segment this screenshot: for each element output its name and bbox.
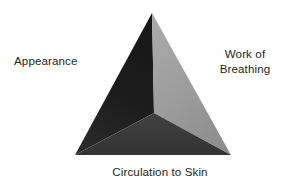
pyramid-label-appearance: Appearance (14, 54, 78, 69)
pyramid-graphic (0, 0, 288, 183)
diagram-canvas: Appearance Work ofBreathing Circulation … (0, 0, 288, 183)
pyramid-label-work-of-breathing: Work ofBreathing (205, 47, 285, 76)
work-of-breathing-line-1: Work of (225, 47, 265, 60)
work-of-breathing-line-2: Breathing (220, 62, 271, 75)
pyramid-label-circulation-to-skin: Circulation to Skin (60, 165, 260, 180)
